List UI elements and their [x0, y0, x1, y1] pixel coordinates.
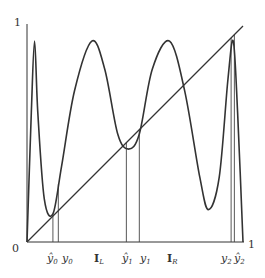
diagram: 1 0 1 ŷ0 y0 IL ŷ1 y1 IR y2 ŷ2	[0, 0, 265, 278]
label-y1-hat: ŷ1	[121, 252, 133, 266]
label-y0-hat: ŷ0	[46, 252, 58, 266]
label-y1: y1	[139, 252, 151, 266]
label-y0: y0	[61, 252, 73, 266]
vertical-lines	[53, 35, 234, 242]
y-end-label: 1	[14, 16, 21, 29]
map-curve	[27, 40, 243, 242]
label-IL: IL	[94, 252, 104, 266]
diagonal-line	[27, 26, 243, 242]
label-IR: IR	[167, 252, 178, 266]
label-y2-hat: ŷ2	[233, 252, 245, 266]
x-end-label: 1	[248, 238, 255, 251]
origin-label: 0	[12, 242, 19, 255]
label-y2: y2	[220, 252, 232, 266]
